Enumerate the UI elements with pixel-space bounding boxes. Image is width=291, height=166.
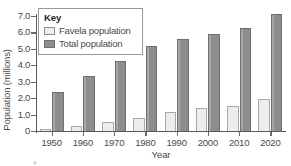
x-axis-tick bbox=[114, 132, 115, 136]
y-axis-tick-label: 2.0 bbox=[0, 93, 30, 103]
y-axis-tick-label: 6.0 bbox=[0, 27, 30, 37]
x-axis-tick bbox=[177, 132, 178, 136]
bar[interactable] bbox=[177, 39, 189, 131]
bar-group bbox=[165, 16, 189, 131]
y-axis-tick-label: 7.0 bbox=[0, 11, 30, 21]
x-axis-line bbox=[36, 131, 286, 132]
x-axis-tick bbox=[52, 132, 53, 136]
bar-group bbox=[196, 16, 220, 131]
bar-group bbox=[258, 16, 282, 131]
y-axis-tick-label: 0 bbox=[0, 126, 30, 136]
y-axis-tick: 0 bbox=[31, 131, 36, 132]
bar[interactable] bbox=[133, 118, 145, 131]
y-axis-tick-label: 3.0 bbox=[0, 77, 30, 87]
x-axis-title: Year bbox=[36, 150, 286, 160]
bar[interactable] bbox=[83, 76, 95, 131]
x-axis-tick bbox=[145, 132, 146, 136]
legend-entry[interactable]: Favela population bbox=[44, 25, 137, 37]
y-axis-tick-label: 4.0 bbox=[0, 60, 30, 70]
bar[interactable] bbox=[240, 28, 252, 132]
bar[interactable] bbox=[208, 34, 220, 131]
bar[interactable] bbox=[52, 92, 64, 131]
bar-group bbox=[227, 16, 251, 131]
legend: Key Favela populationTotal population bbox=[38, 8, 143, 55]
bar[interactable] bbox=[258, 99, 270, 131]
x-axis-tick bbox=[208, 132, 209, 136]
bar[interactable] bbox=[227, 106, 239, 131]
x-axis-tick-label: 2020 bbox=[250, 137, 290, 148]
bar-chart: Population (millions) 01.02.03.04.05.06.… bbox=[0, 0, 291, 166]
y-axis-tick-label: 1.0 bbox=[0, 110, 30, 120]
legend-swatch bbox=[44, 40, 55, 48]
bar[interactable] bbox=[102, 122, 114, 131]
bar[interactable] bbox=[40, 129, 52, 131]
x-axis-tick bbox=[83, 132, 84, 136]
legend-entry[interactable]: Total population bbox=[44, 38, 137, 50]
bar[interactable] bbox=[71, 126, 83, 131]
page-artifact bbox=[33, 161, 37, 165]
legend-swatch bbox=[44, 27, 55, 35]
x-axis-tick bbox=[239, 132, 240, 136]
legend-entry-label: Total population bbox=[59, 39, 122, 49]
y-axis-tick-label: 5.0 bbox=[0, 44, 30, 54]
x-axis-tick bbox=[270, 132, 271, 136]
legend-entry-label: Favela population bbox=[59, 26, 131, 36]
legend-entries: Favela populationTotal population bbox=[44, 25, 137, 50]
bar[interactable] bbox=[115, 61, 127, 131]
legend-title: Key bbox=[44, 12, 137, 23]
bar[interactable] bbox=[165, 112, 177, 131]
bar[interactable] bbox=[146, 46, 158, 131]
bar[interactable] bbox=[271, 14, 283, 131]
bar[interactable] bbox=[196, 108, 208, 131]
